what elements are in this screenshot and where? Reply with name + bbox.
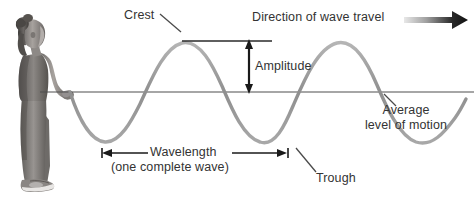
label-wavelength: Wavelength <box>150 145 217 159</box>
diagram-canvas <box>0 0 476 203</box>
wave-diagram: Crest Direction of wave travel Amplitude… <box>0 0 476 203</box>
crest-leader-line <box>160 14 181 32</box>
wavelength-arrowhead-right <box>277 149 287 157</box>
label-average-line2: level of motion <box>353 118 459 132</box>
label-direction-of-wave-travel: Direction of wave travel <box>252 10 384 24</box>
trough-leader-line <box>296 148 316 172</box>
label-wavelength-sub: (one complete wave) <box>111 160 229 174</box>
label-average-line1: Average <box>370 103 442 117</box>
label-crest: Crest <box>124 8 154 22</box>
direction-of-travel-arrow-icon <box>404 11 468 29</box>
label-amplitude: Amplitude <box>255 59 312 73</box>
wavelength-arrowhead-left <box>102 149 112 157</box>
label-trough: Trough <box>316 171 356 185</box>
person-holding-rope-photo <box>16 14 75 192</box>
